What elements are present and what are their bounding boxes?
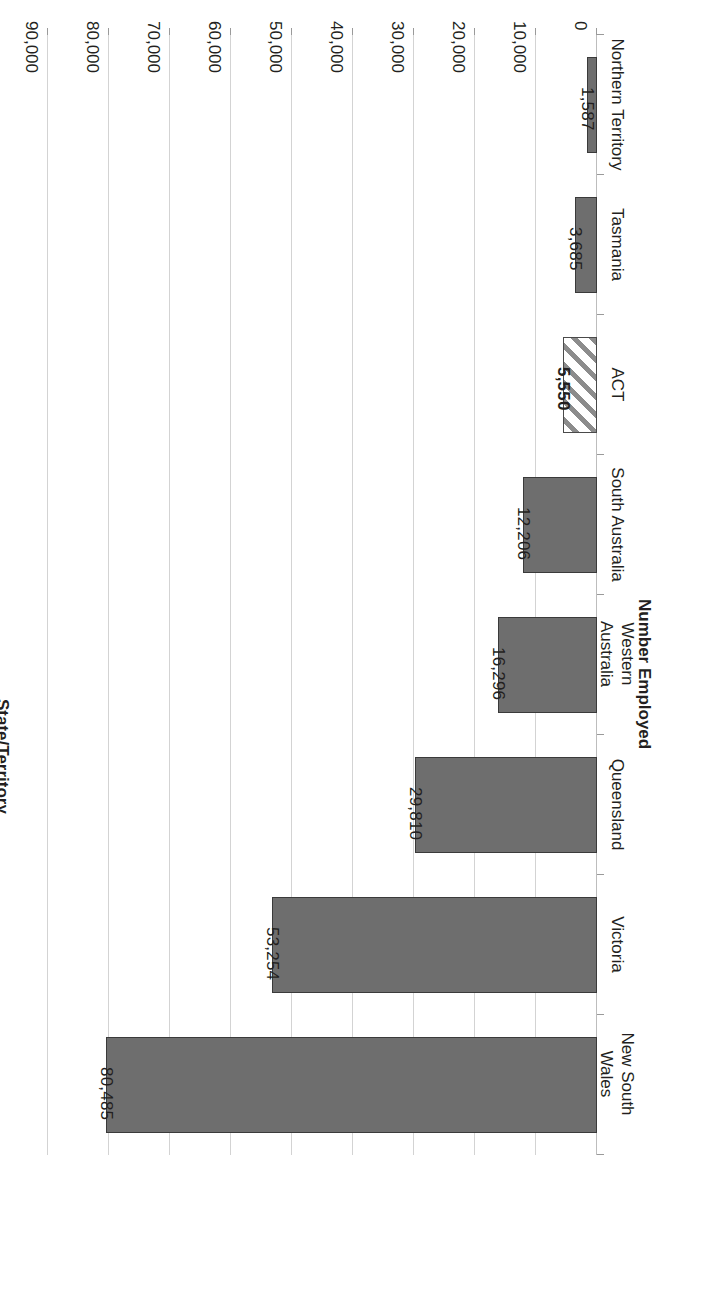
category-axis-tick: [597, 874, 604, 875]
gridline: [47, 35, 48, 1155]
value-axis-tick: [352, 28, 353, 35]
category-axis-tick: [597, 314, 604, 315]
bar-value-label: 29,810: [405, 787, 425, 840]
plot-area: 010,00020,00030,00040,00050,00060,00070,…: [48, 35, 597, 1155]
bar-value-label: 3,685: [565, 227, 585, 271]
bar-chart-figure: 010,00020,00030,00040,00050,00060,00070,…: [0, 0, 702, 1299]
bar-value-label: 1,587: [577, 87, 597, 131]
value-axis-tick: [474, 28, 475, 35]
gridline: [230, 35, 231, 1155]
category-axis-tick: [597, 34, 604, 35]
category-axis-tick: [597, 174, 604, 175]
category-axis-label: Queensland: [607, 735, 628, 875]
category-axis-tick: [597, 1154, 604, 1155]
value-axis-tick-label: 40,000: [326, 21, 346, 73]
value-axis-tick: [108, 28, 109, 35]
category-axis-title: State/Territory: [0, 699, 12, 814]
bar: [415, 757, 597, 853]
bar: [498, 617, 597, 713]
value-axis-tick-label: 10,000: [509, 21, 529, 73]
value-axis-tick: [291, 28, 292, 35]
category-axis-label: New South Wales: [596, 1004, 638, 1144]
category-axis-label: Western Australia: [596, 584, 638, 724]
bar-value-label: 80,485: [96, 1067, 116, 1120]
value-axis-tick-label: 30,000: [387, 21, 407, 73]
value-axis-tick-label: 60,000: [204, 21, 224, 73]
value-axis-tick-label: 70,000: [143, 21, 163, 73]
category-axis-label: South Australia: [607, 455, 628, 595]
bar-value-label: 53,254: [262, 927, 282, 980]
category-axis-label: Victoria: [607, 875, 628, 1015]
value-axis-tick: [413, 28, 414, 35]
value-axis-tick-label: 0: [570, 21, 590, 30]
bar-value-label: 16,296: [488, 647, 508, 700]
bar: [106, 1037, 597, 1133]
category-axis-label: ACT: [607, 315, 628, 455]
gridline: [169, 35, 170, 1155]
value-axis-title: Number Employed: [634, 599, 654, 749]
category-axis-tick: [597, 734, 604, 735]
bar-value-label: 5,550: [553, 367, 573, 411]
bar: [272, 897, 597, 993]
value-axis-tick-label: 50,000: [265, 21, 285, 73]
bar-value-label: 12,206: [513, 507, 533, 560]
category-axis-label: Tasmania: [607, 175, 628, 315]
value-axis-tick-label: 20,000: [448, 21, 468, 73]
value-axis-tick: [230, 28, 231, 35]
category-axis-tick: [597, 454, 604, 455]
category-axis-label: Northern Territory: [607, 35, 628, 175]
gridline: [108, 35, 109, 1155]
value-axis-tick: [47, 28, 48, 35]
value-axis-tick-label: 80,000: [82, 21, 102, 73]
bar: [523, 477, 597, 573]
value-axis-tick: [535, 28, 536, 35]
value-axis-tick-label: 90,000: [21, 21, 41, 73]
value-axis-tick: [169, 28, 170, 35]
